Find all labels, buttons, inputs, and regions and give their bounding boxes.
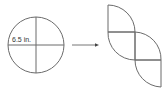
arrow	[72, 43, 99, 46]
arrow-head-icon	[95, 43, 99, 46]
radius-label: 6.5 in.	[12, 36, 31, 43]
rearranged-figure	[108, 5, 161, 87]
sector-2	[108, 32, 135, 60]
sector-4	[135, 60, 161, 87]
diagram-canvas: 6.5 in.	[0, 0, 168, 90]
sector-1	[108, 5, 135, 32]
sector-3	[135, 32, 161, 60]
circle-figure	[8, 17, 64, 73]
